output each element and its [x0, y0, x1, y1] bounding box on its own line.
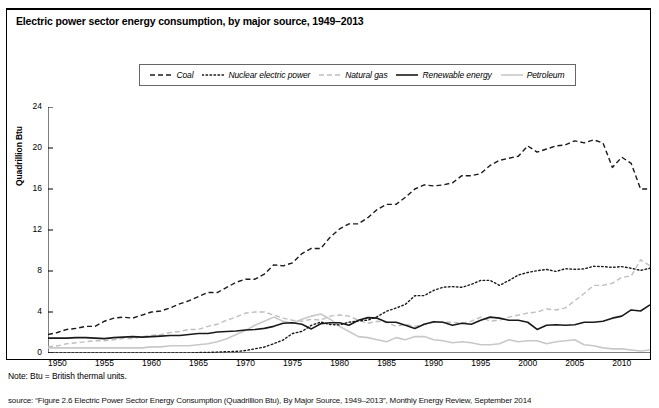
chart-canvas: [48, 107, 650, 353]
legend-swatch-dotted-icon: [202, 71, 224, 79]
x-tick-label: 1955: [84, 358, 124, 368]
legend-swatch-solid-icon: [396, 71, 418, 79]
x-tick-label: 2005: [555, 358, 595, 368]
x-tick-label: 1985: [367, 358, 407, 368]
y-tick-label: 12: [20, 224, 42, 234]
x-tick-label: 1995: [461, 358, 501, 368]
y-tick-label: 20: [20, 142, 42, 152]
x-tick-label: 2010: [602, 358, 642, 368]
x-tick-label: 1990: [414, 358, 454, 368]
legend-item-label: Petroleum: [527, 70, 565, 80]
series-line-coal: [48, 140, 650, 335]
x-tick-label: 1975: [273, 358, 313, 368]
legend-swatch-dashed-icon: [150, 71, 172, 79]
series-line-nuclear-electric-power: [48, 266, 650, 353]
legend-item: Natural gas: [319, 70, 387, 80]
legend-item: Coal: [150, 70, 193, 80]
x-tick-label: 1965: [179, 358, 219, 368]
legend-swatch-solid-icon: [501, 71, 523, 79]
chart-legend: CoalNuclear electric powerNatural gasRen…: [139, 64, 576, 86]
y-tick-label: 0: [20, 347, 42, 357]
figure-page: Electric power sector energy consumption…: [0, 0, 659, 408]
legend-item-label: Coal: [176, 70, 193, 80]
y-tick-label: 16: [20, 183, 42, 193]
chart-plot-area: [48, 107, 650, 353]
y-tick-label: 4: [20, 306, 42, 316]
x-tick-label: 1960: [131, 358, 171, 368]
page-title: Electric power sector energy consumption…: [16, 15, 364, 27]
legend-item: Petroleum: [501, 70, 565, 80]
figure-top-rule: [6, 8, 651, 10]
x-tick-label: 1970: [226, 358, 266, 368]
y-tick-label: 8: [20, 265, 42, 275]
y-axis-label: Quadrillion Btu: [14, 126, 24, 186]
legend-item-label: Nuclear electric power: [228, 70, 310, 80]
figure-note: Note: Btu = British thermal units.: [8, 371, 127, 381]
legend-item-label: Natural gas: [345, 70, 387, 80]
x-tick-label: 1950: [37, 358, 77, 368]
legend-item: Renewable energy: [396, 70, 491, 80]
x-tick-label: 1980: [320, 358, 360, 368]
x-tick-label: 2000: [508, 358, 548, 368]
figure-source: source: “Figure 2.6 Electric Power Secto…: [8, 396, 531, 408]
legend-item-label: Renewable energy: [422, 70, 491, 80]
series-line-natural-gas: [48, 260, 650, 347]
legend-swatch-dashed-icon: [319, 71, 341, 79]
legend-item: Nuclear electric power: [202, 70, 310, 80]
series-line-petroleum: [48, 314, 650, 351]
y-tick-label: 24: [20, 101, 42, 111]
